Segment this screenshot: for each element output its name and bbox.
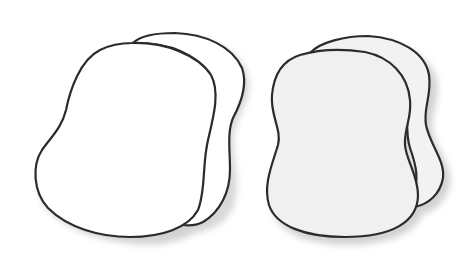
illustration-canvas: Two pairs of overlapping rounded blob sh…	[0, 0, 467, 255]
right-front-blob	[267, 50, 418, 237]
blob-illustration	[0, 0, 467, 255]
right-blob-pair	[267, 36, 450, 245]
left-front-blob	[35, 43, 215, 237]
left-blob-pair	[35, 33, 249, 245]
